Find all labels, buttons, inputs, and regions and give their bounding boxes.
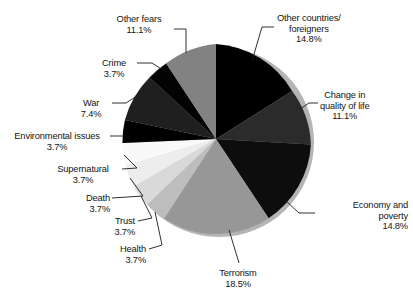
pie-label-death: Death 3.7% [52, 193, 110, 214]
pie-label-environmental-issues-percent: 3.7% [4, 142, 110, 153]
pie-label-terrorism-percent: 18.5% [200, 279, 276, 290]
pie-label-change-in-quality-of-life-line1: Change in [320, 90, 369, 101]
pie-label-economy-and-poverty: Economy and poverty 14.8% [313, 200, 408, 232]
pie-label-other-fears: Other fears 11.1% [104, 14, 174, 35]
pie-label-war: War 7.4% [72, 98, 110, 119]
pie-label-other-countries-foreigners-percent: 14.8% [277, 34, 341, 45]
pie-label-supernatural-line1: Supernatural [44, 164, 122, 175]
pie-label-change-in-quality-of-life: Change in quality of life 11.1% [320, 90, 369, 122]
leader-line-other-fears [174, 29, 186, 53]
pie-label-health-line1: Health [88, 244, 146, 255]
pie-label-crime-percent: 3.7% [92, 69, 136, 80]
pie-label-death-percent: 3.7% [52, 204, 110, 215]
pie-label-supernatural: Supernatural 3.7% [44, 164, 122, 185]
pie-chart: Other countries/ foreigners 14.8% Change… [0, 0, 413, 300]
pie-label-change-in-quality-of-life-line2: quality of life [320, 101, 369, 112]
pie-label-change-in-quality-of-life-percent: 11.1% [320, 111, 369, 122]
pie-label-other-fears-line1: Other fears [104, 14, 174, 25]
pie-label-environmental-issues-line1: Environmental issues [4, 131, 110, 142]
pie-label-other-countries-foreigners-line1: Other countries/ [277, 13, 341, 24]
pie-label-trust-line1: Trust [80, 216, 135, 227]
pie-label-other-fears-percent: 11.1% [104, 25, 174, 36]
pie-label-health-percent: 3.7% [88, 255, 146, 266]
pie-label-supernatural-percent: 3.7% [44, 175, 122, 186]
pie-label-economy-and-poverty-percent: 14.8% [313, 221, 408, 232]
pie-label-other-countries-foreigners-line2: foreigners [277, 24, 341, 35]
pie-label-war-line1: War [72, 98, 110, 109]
leader-line-health [149, 212, 162, 249]
pie-label-health: Health 3.7% [88, 244, 146, 265]
pie-label-trust-percent: 3.7% [80, 227, 135, 238]
pie-label-economy-and-poverty-line1: Economy and [313, 200, 408, 211]
pie-label-war-percent: 7.4% [72, 109, 110, 120]
pie-label-terrorism-line1: Terrorism [200, 268, 276, 279]
pie-label-other-countries-foreigners: Other countries/ foreigners 14.8% [277, 13, 341, 45]
pie-label-economy-and-poverty-line2: poverty [313, 211, 408, 222]
pie-label-trust: Trust 3.7% [80, 216, 135, 237]
pie-label-death-line1: Death [52, 193, 110, 204]
pie-label-environmental-issues: Environmental issues 3.7% [4, 131, 110, 152]
pie-label-crime-line1: Crime [92, 58, 136, 69]
pie-label-crime: Crime 3.7% [92, 58, 136, 79]
pie-label-terrorism: Terrorism 18.5% [200, 268, 276, 289]
